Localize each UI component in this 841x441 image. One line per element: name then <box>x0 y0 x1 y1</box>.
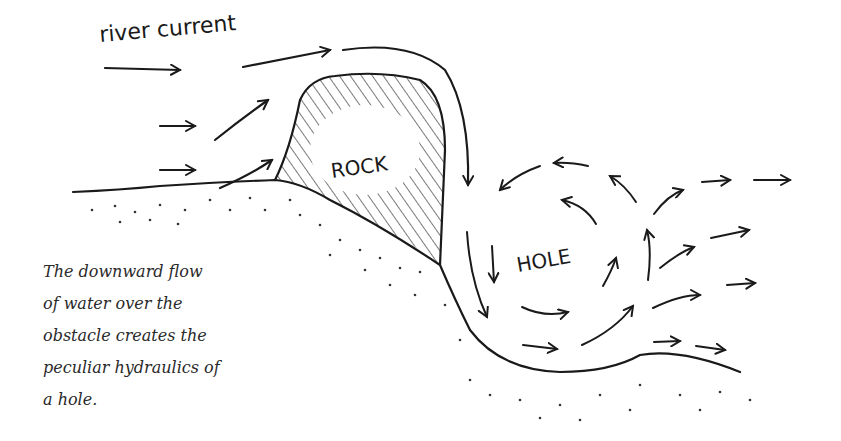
hydraulics-diagram: river current ROCK <box>0 0 841 441</box>
hole-arrows <box>467 163 683 349</box>
figure-caption: The downward flow of water over the obst… <box>43 256 253 416</box>
caption-line: of water over the <box>43 288 253 320</box>
rock: ROCK <box>275 74 445 265</box>
caption-line: peculiar hydraulics of <box>43 352 253 384</box>
outflow-arrows <box>653 180 790 350</box>
caption-line: The downward flow <box>43 256 253 288</box>
river-current-label: river current <box>98 10 237 47</box>
caption-line: obstacle creates the <box>43 320 253 352</box>
caption-line: a hole. <box>43 384 253 416</box>
hole-label: HOLE <box>515 244 573 277</box>
